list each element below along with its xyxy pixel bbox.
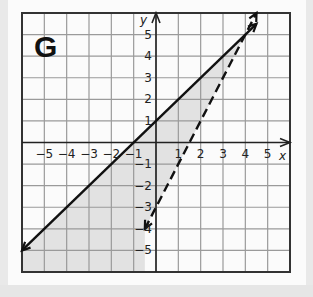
x-tick-label: −2 bbox=[102, 147, 120, 161]
line-arrowhead-icon bbox=[249, 13, 256, 22]
coordinate-plane-chart: −5−4−3−2−11234554321−1−2−3−4−5 G x y bbox=[0, 0, 313, 297]
y-tick-label: −3 bbox=[134, 200, 152, 214]
x-tick-label: −5 bbox=[35, 147, 53, 161]
y-tick-label: −1 bbox=[134, 157, 152, 171]
x-tick-label: 5 bbox=[264, 147, 272, 161]
y-tick-label: −4 bbox=[134, 222, 152, 236]
y-tick-label: 3 bbox=[144, 71, 152, 85]
y-axis-label: y bbox=[139, 13, 148, 27]
x-tick-label: 2 bbox=[197, 147, 205, 161]
x-tick-label: −4 bbox=[58, 147, 76, 161]
x-tick-label: −3 bbox=[80, 147, 98, 161]
y-tick-label: −2 bbox=[134, 179, 152, 193]
x-tick-label: 3 bbox=[219, 147, 227, 161]
x-tick-label: 4 bbox=[242, 147, 250, 161]
y-tick-label: 4 bbox=[144, 49, 152, 63]
x-tick-label: 1 bbox=[175, 147, 183, 161]
figure-label: G bbox=[34, 30, 57, 63]
y-tick-label: 5 bbox=[144, 28, 152, 42]
x-axis-label: x bbox=[278, 149, 287, 163]
y-tick-label: −5 bbox=[134, 243, 152, 257]
y-tick-label: 1 bbox=[144, 114, 152, 128]
y-tick-label: 2 bbox=[144, 92, 152, 106]
